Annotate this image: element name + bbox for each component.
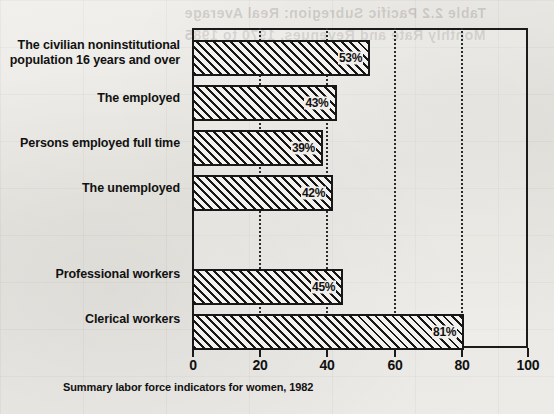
- category-label-civilian-noninstitutional-population: The civilian noninstitutional population…: [0, 38, 180, 68]
- gridline-80: [461, 28, 463, 348]
- category-label-persons-employed-full-time: Persons employed full time: [0, 136, 180, 151]
- xaxis-tick-80: [461, 348, 463, 357]
- xaxis-tick-20: [259, 348, 261, 357]
- xaxis-label-100: 100: [517, 357, 540, 373]
- category-label-the-employed: The employed: [0, 91, 180, 106]
- bar-civilian-noninstitutional-population[interactable]: 53%: [192, 40, 370, 76]
- bar-value-label: 42%: [301, 187, 326, 200]
- bar-value-label: 43%: [304, 97, 329, 110]
- chart-caption: Summary labor force indicators for women…: [63, 381, 313, 393]
- bar-clerical-workers[interactable]: 81%: [192, 314, 464, 350]
- bar-value-label: 53%: [338, 52, 363, 65]
- bar-the-employed[interactable]: 43%: [192, 85, 337, 121]
- table-row[interactable]: 53%: [192, 40, 370, 76]
- xaxis-tick-0: [192, 348, 194, 357]
- xaxis-label-20: 20: [252, 357, 267, 373]
- table-row[interactable]: 42%: [192, 175, 333, 211]
- xaxis-label-80: 80: [454, 357, 469, 373]
- chart-plot-area: 53% 43% 39% 42% 45% 81%: [192, 28, 528, 348]
- table-row[interactable]: 45%: [192, 269, 343, 305]
- category-label-clerical-workers: Clerical workers: [0, 312, 180, 327]
- category-label-the-unemployed: The unemployed: [0, 181, 180, 196]
- table-row[interactable]: 39%: [192, 130, 323, 166]
- xaxis-label-60: 60: [387, 357, 402, 373]
- bar-value-label: 81%: [432, 326, 457, 339]
- xaxis-tick-100: [527, 348, 529, 357]
- xaxis-label-0: 0: [189, 357, 197, 373]
- bar-value-label: 39%: [291, 142, 316, 155]
- xaxis-tick-60: [394, 348, 396, 357]
- bar-value-label: 45%: [311, 281, 336, 294]
- table-row[interactable]: 81%: [192, 314, 464, 350]
- category-label-line-2: population 16 years and over: [0, 53, 180, 68]
- xaxis-label-40: 40: [319, 357, 334, 373]
- category-label-professional-workers: Professional workers: [0, 267, 180, 282]
- category-label-line-1: The civilian noninstitutional: [0, 38, 180, 53]
- bar-the-unemployed[interactable]: 42%: [192, 175, 333, 211]
- gridline-60: [394, 28, 396, 348]
- xaxis-tick-40: [326, 348, 328, 357]
- table-row[interactable]: 43%: [192, 85, 337, 121]
- bar-persons-employed-full-time[interactable]: 39%: [192, 130, 323, 166]
- bar-professional-workers[interactable]: 45%: [192, 269, 343, 305]
